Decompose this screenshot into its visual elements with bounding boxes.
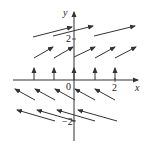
slope-arrow <box>74 47 95 57</box>
slope-arrow <box>94 26 135 36</box>
slope-arrow <box>17 110 55 121</box>
slope-arrow <box>34 47 53 58</box>
y-axis-label: y <box>63 8 67 18</box>
x-tick-label-2: 2 <box>112 83 117 93</box>
origin-label: 0 <box>66 82 71 92</box>
slope-arrow <box>115 47 136 58</box>
slope-arrow <box>54 47 73 58</box>
x-axis-label: x <box>135 83 139 93</box>
slope-arrow <box>78 110 117 121</box>
slope-arrow <box>75 89 95 100</box>
slope-arrow <box>95 47 115 58</box>
slope-arrow <box>55 89 75 100</box>
y-tick-label-2: 2 <box>66 34 71 44</box>
slope-arrow <box>35 89 55 100</box>
slope-arrow <box>53 26 93 36</box>
y-tick-label-neg2: −2 <box>62 117 73 127</box>
slope-arrow <box>15 89 35 100</box>
slope-arrows <box>15 26 136 121</box>
